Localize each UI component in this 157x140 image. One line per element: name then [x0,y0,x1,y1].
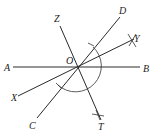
label-Z: Z [54,13,60,24]
label-O: O [66,55,73,66]
line-ZT [60,26,101,120]
arc-tick-lower [56,83,61,88]
arc-tick-upper [88,43,94,46]
label-C: C [29,120,36,131]
label-X: X [10,92,18,103]
label-T: T [98,121,105,132]
label-A: A [3,62,11,73]
label-B: B [143,63,149,74]
geometry-diagram: A B O Z D Y X C T [0,0,157,140]
label-Y: Y [134,33,141,44]
label-D: D [118,5,127,16]
